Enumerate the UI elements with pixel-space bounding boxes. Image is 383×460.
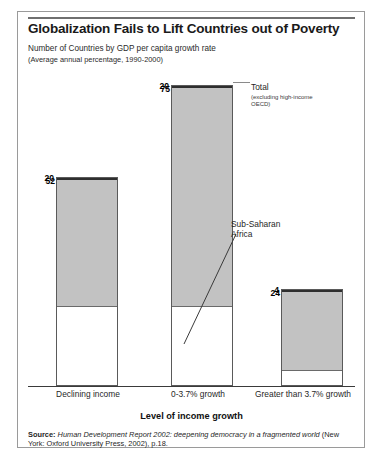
bar-value-sub-saharan: 4 [274, 286, 279, 295]
bar-group-declining-income: 52 20 [56, 177, 118, 386]
figure-frame: Globalization Fails to Lift Countries ou… [17, 11, 365, 448]
x-axis-label-greater-than-3-7-growth: Greater than 3.7% growth [254, 390, 352, 400]
total-leader-line [233, 82, 250, 83]
total-annotation-sublabel: (excluding high-income OECD) [251, 94, 313, 108]
chart-subtitle-line1: Number of Countries by GDP per capita gr… [28, 44, 216, 53]
source-note: Source: Human Development Report 2002: d… [28, 430, 350, 449]
bar-value-sub-saharan: 20 [159, 82, 169, 91]
sub-saharan-annotation-label: Sub-Saharan Africa [231, 220, 301, 239]
bar-segment-total: 24 [282, 290, 342, 371]
total-annotation-label: Total [251, 82, 269, 92]
sub-saharan-leader-line [178, 232, 240, 347]
plot-area: 52 20 75 20 24 [28, 72, 355, 387]
total-annotation: Total (excluding high-income OECD) [251, 76, 351, 108]
bar-segment-total: 52 [57, 178, 117, 307]
title-rule [28, 17, 355, 19]
source-title: Human Development Report 2002: deepening… [58, 430, 320, 439]
chart-subtitle: Number of Countries by GDP per capita gr… [28, 44, 328, 65]
page-title: Globalization Fails to Lift Countries ou… [28, 21, 358, 37]
bar-group-greater-than-3-7-growth: 24 4 [281, 289, 343, 386]
x-axis-label-declining-income: Declining income [34, 390, 142, 400]
x-axis-line [28, 386, 355, 387]
x-axis-label-0-3-7-growth: 0-3.7% growth [148, 390, 248, 400]
bar-stack[interactable]: 52 20 [56, 177, 118, 386]
bar-segment-sub-saharan: 20 [57, 307, 117, 385]
x-axis-title: Level of income growth [28, 411, 355, 421]
chart-subtitle-line2: (Average annual percentage, 1990-2000) [28, 55, 328, 66]
bar-value-sub-saharan: 20 [44, 174, 54, 183]
source-label: Source: [28, 430, 56, 439]
bar-stack[interactable]: 24 4 [281, 289, 343, 386]
bar-segment-sub-saharan: 4 [282, 371, 342, 385]
